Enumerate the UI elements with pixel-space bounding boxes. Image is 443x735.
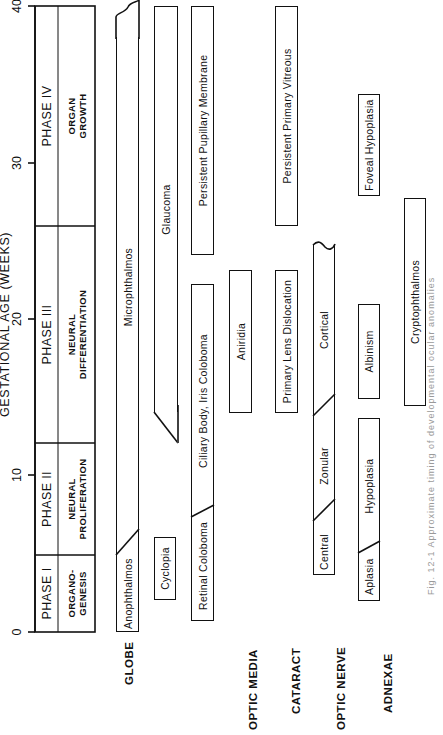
microphthalmos-wavy-end (116, 0, 139, 39)
tick-label-30: 30 (10, 156, 24, 170)
bar-cataract-zonular: Zonular (313, 411, 335, 521)
bar-cataract-cortical: Cortical (313, 244, 335, 416)
bar-cryptophthalmos: Cryptophthalmos (404, 198, 426, 406)
figure-caption: Fig. 12-1 Approximate timing of developm… (426, 277, 436, 595)
bar-anophthalmos: Anophthalmos (116, 529, 139, 632)
row-label-optic-media: OPTIC MEDIA (247, 649, 259, 730)
bar-hypoplasia: Hypoplasia (358, 418, 380, 553)
phase-2-name: PHASE II (35, 443, 58, 555)
phase-2-desc: NEURAL PROLIFERATION (58, 443, 95, 555)
tick-label-0: 0 (10, 629, 24, 636)
phase-4-desc: ORGAN GROWTH (58, 6, 95, 226)
bar-glaucoma: Glaucoma (154, 6, 178, 412)
phase-1-desc: ORGANO- GENESIS (58, 555, 95, 632)
row-label-globe-vis: GLOBE (123, 642, 135, 685)
phase-3-desc: NEURAL DIFFERENTIATION (58, 226, 95, 443)
tick-label-10: 10 (10, 468, 24, 482)
bar-primary-lens-dislocation: Primary Lens Dislocation (275, 270, 298, 413)
phase-1-name: PHASE I (35, 555, 58, 632)
phase-3-name: PHASE III (35, 226, 58, 443)
bar-albinism: Albinism (358, 304, 380, 399)
row-label-adnexae: ADNEXAE (382, 653, 394, 713)
bar-aniridia: Aniridia (229, 270, 252, 413)
bar-persistent-pupillary-membrane: Persistent Pupillary Membrane (191, 6, 214, 255)
row-label-cataract: CATARACT (290, 648, 302, 714)
bar-ciliary-iris-coloboma: Ciliary Body, Iris Coloboma (191, 284, 214, 517)
bar-microphthalmos: Microphthalmos (116, 37, 139, 537)
row-label-optic-nerve: OPTIC NERVE (335, 647, 347, 730)
phase-4-name: PHASE IV (35, 6, 58, 226)
bar-retinal-coloboma: Retinal Coloboma (191, 511, 214, 621)
figure-rotated-canvas: GESTATIONAL AGE (WEEKS) 0 10 20 30 40 PH… (0, 0, 443, 735)
bar-cyclopia: Cyclopia (154, 537, 176, 600)
tick-label-40: 40 (10, 0, 24, 13)
tick-label-20: 20 (10, 312, 24, 326)
bar-persistent-primary-vitreous: Persistent Primary Vitreous (275, 6, 298, 226)
bar-foveal-hypoplasia: Foveal Hypoplasia (358, 94, 380, 196)
